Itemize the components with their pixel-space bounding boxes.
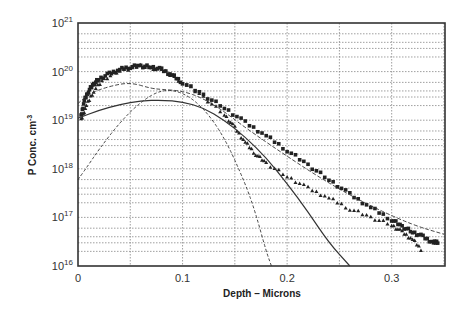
data-point-triangle: [373, 218, 377, 222]
data-point-triangle: [356, 209, 360, 213]
y-axis-label: P Conc. cm-3: [26, 115, 38, 176]
data-point-square: [327, 178, 331, 182]
data-point-square: [210, 98, 214, 102]
data-point-square: [277, 142, 281, 146]
data-point-square: [319, 171, 323, 175]
data-point-square: [294, 153, 298, 157]
data-point-triangle: [218, 110, 222, 114]
data-point-triangle: [289, 176, 293, 180]
data-point-square: [302, 160, 306, 164]
data-point-square: [243, 119, 247, 123]
data-point-square: [289, 151, 293, 155]
chart: 102110201019101810171016 00.10.20.3 Dept…: [0, 0, 467, 314]
data-point-triangle: [281, 172, 285, 176]
x-tick-label: 0: [75, 272, 81, 284]
data-point-square: [382, 212, 386, 216]
data-point-square: [218, 104, 222, 108]
data-point-square: [306, 162, 310, 166]
data-point-triangle: [344, 206, 348, 210]
y-tick-label: 1021: [52, 15, 74, 29]
x-tick-label: 0.3: [384, 272, 399, 284]
data-point-triangle: [327, 196, 331, 200]
data-point-square: [82, 99, 86, 103]
data-point-square: [344, 188, 348, 192]
data-point-triangle: [310, 189, 314, 193]
data-point-square: [269, 135, 273, 139]
data-point-triangle: [306, 185, 310, 189]
data-point-square: [331, 180, 335, 184]
data-point-square: [394, 219, 398, 223]
data-point-triangle: [298, 181, 302, 185]
data-point-square: [425, 237, 429, 241]
data-point-triangle: [339, 202, 343, 206]
data-point-square: [361, 202, 365, 206]
data-point-square: [310, 167, 314, 171]
data-point-square: [421, 234, 425, 238]
data-point-square: [273, 140, 277, 144]
data-point-square: [223, 107, 227, 111]
grid-lines: [78, 23, 445, 266]
data-point-square: [227, 108, 231, 112]
data-point-square: [386, 217, 390, 221]
data-point-square: [407, 227, 411, 231]
data-point-square: [298, 158, 302, 162]
data-point-square: [252, 125, 256, 129]
data-point-square: [436, 241, 440, 245]
data-point-triangle: [377, 218, 381, 222]
data-point-triangle: [348, 208, 352, 212]
data-point-square: [400, 224, 404, 228]
x-axis-ticks: 00.10.20.3: [75, 272, 399, 284]
data-point-triangle: [352, 209, 356, 213]
y-axis-ticks: 102110201019101810171016: [52, 15, 74, 272]
data-point-square: [235, 115, 239, 119]
x-axis-label: Depth – Microns: [223, 288, 301, 299]
data-point-square: [239, 116, 243, 120]
y-tick-label: 1016: [52, 258, 74, 272]
data-point-triangle: [252, 151, 256, 155]
y-tick-label: 1020: [52, 64, 74, 78]
data-point-triangle: [323, 194, 327, 198]
y-axis-label-sup: -3: [26, 115, 33, 121]
x-tick-label: 0.2: [279, 272, 294, 284]
data-point-triangle: [360, 213, 364, 217]
data-point-triangle: [369, 215, 373, 219]
data-point-triangle: [335, 201, 339, 205]
data-point-triangle: [419, 248, 423, 252]
y-axis-label-main: P Conc. cm: [27, 121, 38, 175]
data-point-triangle: [302, 182, 306, 186]
data-point-triangle: [94, 87, 98, 91]
y-tick-label: 1018: [52, 161, 74, 175]
series-line-3: [78, 84, 444, 235]
x-tick-label: 0.1: [175, 272, 190, 284]
data-series: [78, 63, 444, 266]
data-point-square: [260, 131, 264, 135]
y-tick-label: 1017: [52, 209, 74, 223]
data-point-square: [315, 169, 319, 173]
data-point-square: [281, 147, 285, 151]
data-point-triangle: [385, 222, 389, 226]
data-point-square: [214, 99, 218, 103]
data-point-square: [231, 113, 235, 117]
y-tick-label: 1019: [52, 112, 74, 126]
data-point-triangle: [331, 197, 335, 201]
data-point-triangle: [314, 189, 318, 193]
plot-frame: [78, 23, 445, 266]
data-point-triangle: [365, 213, 369, 217]
data-point-triangle: [285, 175, 289, 179]
data-point-square: [82, 102, 86, 106]
data-point-square: [323, 176, 327, 180]
data-point-square: [377, 211, 381, 215]
data-point-triangle: [268, 165, 272, 169]
series-line-2: [78, 100, 350, 266]
data-point-square: [285, 150, 289, 154]
data-point-triangle: [381, 219, 385, 223]
data-point-square: [248, 124, 252, 128]
data-point-square: [256, 130, 260, 134]
data-point-triangle: [293, 180, 297, 184]
data-point-square: [264, 134, 268, 138]
